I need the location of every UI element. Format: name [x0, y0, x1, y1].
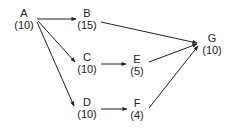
- node-b-value: (15): [77, 19, 97, 31]
- node-f: F (4): [130, 97, 143, 121]
- node-g: G (10): [202, 32, 222, 56]
- node-d-label: D: [83, 96, 91, 108]
- edge-f-g: [149, 46, 198, 108]
- node-f-label: F: [134, 97, 141, 109]
- edge-e-g: [149, 44, 197, 62]
- node-b-label: B: [83, 7, 90, 19]
- node-a-label: A: [20, 7, 28, 19]
- activity-network-diagram: A (10) B (15) C (10) D (10) E (5) F (4) …: [0, 0, 229, 129]
- edge-a-d: [37, 22, 74, 106]
- node-d-value: (10): [77, 108, 97, 120]
- node-a: A (10): [14, 7, 34, 31]
- node-e-value: (5): [130, 65, 143, 77]
- node-b: B (15): [77, 7, 97, 31]
- edge-a-c: [38, 21, 75, 62]
- node-g-value: (10): [202, 44, 222, 56]
- node-g-label: G: [208, 32, 217, 44]
- node-a-value: (10): [14, 19, 34, 31]
- node-c-value: (10): [77, 63, 97, 75]
- node-e: E (5): [130, 53, 143, 77]
- edges: [37, 19, 198, 109]
- node-c: C (10): [77, 51, 97, 75]
- node-c-label: C: [83, 51, 91, 63]
- node-e-label: E: [133, 53, 140, 65]
- edge-b-g: [101, 22, 197, 43]
- node-d: D (10): [77, 96, 97, 120]
- node-f-value: (4): [130, 109, 143, 121]
